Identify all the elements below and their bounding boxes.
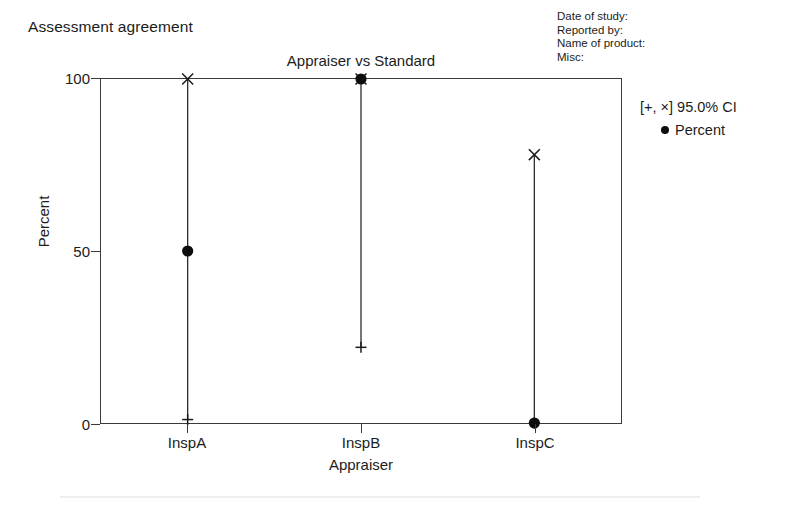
x-axis-tick-label: InspB xyxy=(342,434,380,451)
y-axis-tick-label: 50 xyxy=(73,243,90,260)
x-axis-title: Appraiser xyxy=(100,456,622,473)
y-axis-tick-label: 100 xyxy=(65,70,90,87)
x-axis-tick-mark xyxy=(361,424,362,433)
plot-area xyxy=(100,78,622,424)
x-axis-tick-label: InspC xyxy=(515,434,554,451)
data-point-group xyxy=(182,74,193,425)
data-point-group xyxy=(355,73,366,352)
filled-circle-icon xyxy=(661,126,669,134)
x-axis-tick-label: InspA xyxy=(168,434,206,451)
meta-date-of-study: Date of study: xyxy=(557,10,645,24)
y-axis-tick-label: 0 xyxy=(82,416,90,433)
y-axis-tick-mark xyxy=(91,424,100,425)
y-axis-tick-labels: 050100 xyxy=(38,78,90,424)
legend-item-ci: [+, ×] 95.0% CI xyxy=(640,96,786,119)
scan-artifact xyxy=(60,496,700,498)
y-axis-tick-mark xyxy=(91,251,100,252)
plot-canvas xyxy=(101,79,621,423)
chart-legend: [+, ×] 95.0% CI Percent xyxy=(640,96,786,142)
ci-lower-plus-icon xyxy=(356,342,367,353)
y-axis-tick-mark xyxy=(91,78,100,79)
assessment-agreement-chart-page: Assessment agreement Date of study: Repo… xyxy=(0,0,789,506)
percent-data-point xyxy=(182,245,193,256)
percent-data-point xyxy=(355,73,366,84)
x-axis-tick-mark xyxy=(535,424,536,433)
meta-reported-by: Reported by: xyxy=(557,24,645,38)
legend-percent-label: Percent xyxy=(675,122,725,138)
data-point-group xyxy=(529,149,540,428)
legend-ci-label: [+, ×] 95.0% CI xyxy=(640,99,737,115)
page-title: Assessment agreement xyxy=(28,18,193,36)
legend-item-percent: Percent xyxy=(640,119,786,142)
chart-title: Appraiser vs Standard xyxy=(100,52,622,69)
x-axis-tick-mark xyxy=(187,424,188,433)
meta-name-of-product: Name of product: xyxy=(557,37,645,51)
